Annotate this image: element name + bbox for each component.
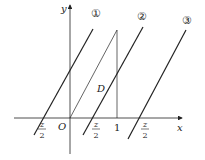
line-2-label: ② <box>137 10 147 23</box>
y-axis-label: y <box>60 3 67 14</box>
triangle-hypotenuse <box>70 30 117 118</box>
x-axis-label: x <box>177 122 183 133</box>
line-2 <box>83 27 143 135</box>
origin-label: O <box>58 121 66 132</box>
svg-text:2: 2 <box>142 131 147 140</box>
svg-text:2: 2 <box>93 131 98 140</box>
svg-text:2: 2 <box>39 131 44 140</box>
line-1-label: ① <box>91 7 101 20</box>
tick-label-one: 1 <box>114 122 120 133</box>
intercept-fraction-1: z 2 <box>38 120 46 140</box>
svg-text:z: z <box>93 120 99 129</box>
svg-text:z: z <box>142 120 148 129</box>
diagram-canvas: y x O 1 D ① ② ③ z 2 z 2 z 2 <box>0 0 205 160</box>
intercept-fraction-3: z 2 <box>141 120 149 140</box>
intercept-fraction-2: z 2 <box>92 120 100 140</box>
region-label-d: D <box>96 83 105 94</box>
svg-text:z: z <box>39 120 45 129</box>
line-3-label: ③ <box>182 14 192 27</box>
